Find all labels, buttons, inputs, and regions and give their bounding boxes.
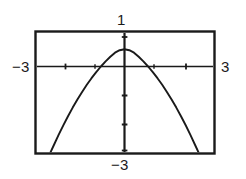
calculator-graph-figure: 1 −3 3 −3 <box>0 0 246 179</box>
x-min-label: −3 <box>12 59 30 74</box>
y-max-label: 1 <box>117 12 126 27</box>
y-min-label: −3 <box>111 157 129 172</box>
x-max-label: 3 <box>221 59 230 74</box>
